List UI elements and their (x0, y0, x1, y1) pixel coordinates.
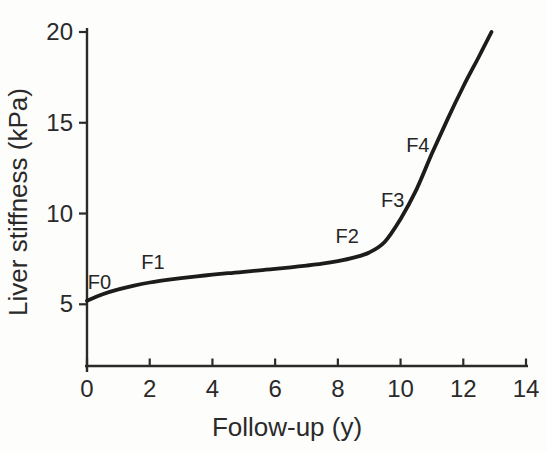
y-tick-label: 10 (46, 200, 73, 227)
x-tick-label: 12 (450, 375, 477, 402)
annotation-label-F3: F3 (381, 189, 404, 211)
x-tick-label: 6 (268, 375, 281, 402)
x-tick-label: 10 (387, 375, 414, 402)
axes (85, 28, 528, 372)
annotation-label-F4: F4 (406, 134, 429, 156)
y-tick-label: 5 (60, 290, 73, 317)
x-tick-label: 8 (331, 375, 344, 402)
x-tick-label: 4 (206, 375, 219, 402)
y-axis-title: Liver stiffness (kPa) (3, 88, 33, 316)
x-tick-label: 2 (143, 375, 156, 402)
axis-ticks (79, 32, 526, 366)
annotation-label-F1: F1 (141, 251, 164, 273)
annotation-label-F0: F0 (88, 271, 111, 293)
liver-stiffness-chart: 024681012145101520 F0F1F2F3F4 Follow-up … (0, 0, 547, 453)
annotation-label-F2: F2 (336, 225, 359, 247)
x-tick-label: 0 (80, 375, 93, 402)
y-tick-label: 15 (46, 109, 73, 136)
x-tick-label: 14 (513, 375, 540, 402)
chart-figure: 024681012145101520 F0F1F2F3F4 Follow-up … (0, 0, 547, 453)
axis-tick-labels: 024681012145101520 (46, 18, 539, 402)
y-tick-label: 20 (46, 18, 73, 45)
x-axis-title: Follow-up (y) (212, 412, 362, 442)
